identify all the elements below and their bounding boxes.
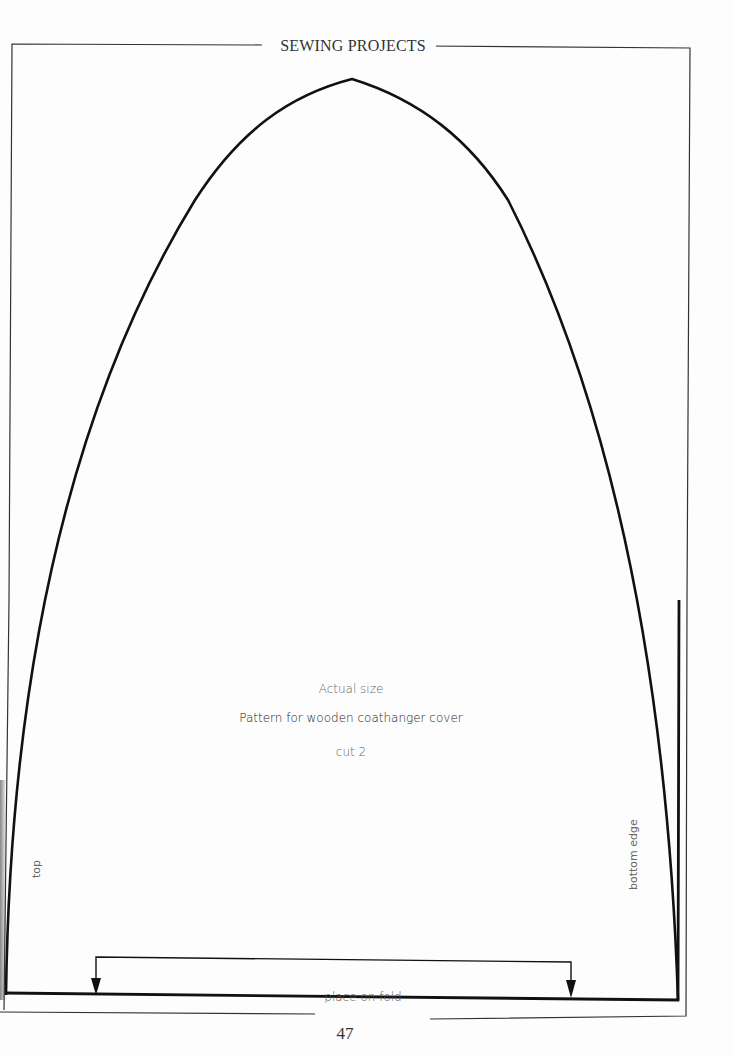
left-edge-label: top: [30, 860, 43, 878]
header-title: SEWING PROJECTS: [270, 37, 436, 54]
fold-edge-line: [5, 600, 679, 1000]
page-frame: [0, 44, 690, 1019]
scale-note: Actual size: [0, 682, 718, 696]
book-page: SEWING PROJECTS Actual size Pattern for …: [0, 0, 734, 1056]
cut-instruction: cut 2: [0, 745, 718, 759]
fold-label: place on fold: [0, 990, 730, 1004]
running-header: SEWING PROJECTS: [0, 37, 734, 55]
pattern-artwork: [0, 0, 734, 1056]
page-number: 47: [323, 1024, 368, 1043]
right-edge-label: bottom edge: [627, 819, 640, 890]
pattern-curve: [6, 79, 678, 1000]
fold-bracket: [96, 957, 571, 990]
pattern-title: Pattern for wooden coathanger cover: [0, 711, 718, 725]
page-footer: 47: [0, 1024, 734, 1044]
